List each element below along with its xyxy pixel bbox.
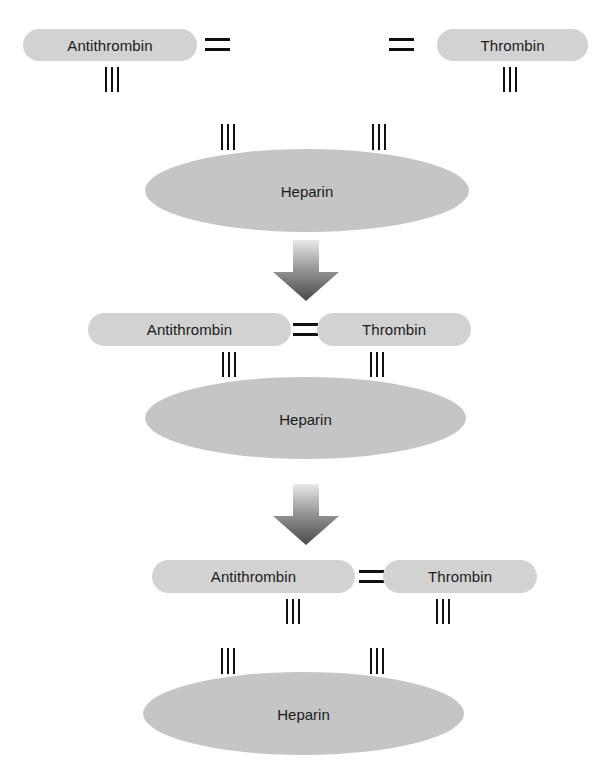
heparin-left-ticks-stage-1: III xyxy=(221,124,241,150)
thrombin-heparin-ticks-stage-2: III xyxy=(370,352,390,377)
antithrombin-label: Antithrombin xyxy=(147,321,232,338)
heparin-ellipse-stage-2: Heparin xyxy=(145,377,466,459)
heparin-ellipse-stage-1: Heparin xyxy=(145,149,469,232)
heparin-label: Heparin xyxy=(277,706,330,723)
antithrombin-pill-stage-2: Antithrombin xyxy=(88,313,291,346)
antithrombin-ticks-stage-3: III xyxy=(286,599,306,624)
antithrombin-ticks-stage-1: III xyxy=(105,67,125,92)
heparin-right-ticks-stage-3: III xyxy=(370,648,390,674)
thrombin-pill-stage-1: Thrombin xyxy=(437,29,588,61)
heparin-left-ticks-stage-3: III xyxy=(221,648,241,674)
thrombin-bond-stage-1: = xyxy=(389,38,414,51)
antithrombin-pill-stage-3: Antithrombin xyxy=(152,560,355,593)
heparin-right-ticks-stage-1: III xyxy=(372,124,392,150)
antithrombin-label: Antithrombin xyxy=(67,37,152,54)
heparin-mechanism-diagram: Antithrombin = III = Thrombin III III I xyxy=(0,0,613,767)
thrombin-label: Thrombin xyxy=(362,321,426,338)
down-arrow-icon-2 xyxy=(266,484,346,546)
antithrombin-label: Antithrombin xyxy=(211,568,296,585)
down-arrow-icon-1 xyxy=(266,240,346,302)
thrombin-ticks-stage-3: III xyxy=(436,599,456,624)
heparin-ellipse-stage-3: Heparin xyxy=(143,672,464,755)
thrombin-pill-stage-3: Thrombin xyxy=(383,560,537,593)
antithrombin-bond-stage-1: = xyxy=(205,38,230,51)
thrombin-label: Thrombin xyxy=(428,568,492,585)
thrombin-ticks-stage-1: III xyxy=(503,67,523,92)
heparin-label: Heparin xyxy=(281,183,334,200)
antithrombin-thrombin-bond-stage-2: = xyxy=(293,323,318,336)
heparin-label: Heparin xyxy=(279,411,332,428)
thrombin-label: Thrombin xyxy=(480,37,544,54)
antithrombin-heparin-ticks-stage-2: III xyxy=(222,352,242,377)
antithrombin-pill-stage-1: Antithrombin xyxy=(23,29,197,61)
antithrombin-thrombin-bond-stage-3: = xyxy=(359,570,384,583)
thrombin-pill-stage-2: Thrombin xyxy=(317,313,471,346)
